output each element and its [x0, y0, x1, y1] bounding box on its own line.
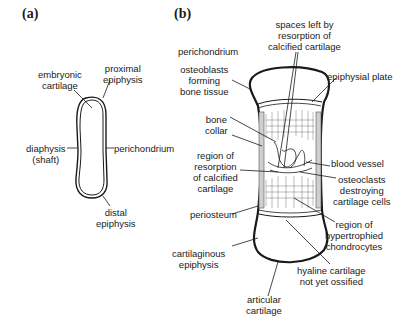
label-epiphysial-plate: epiphysial plate	[327, 71, 393, 82]
cartilage-model-a	[76, 97, 107, 198]
label-spaces-left: spaces left byresorption ofcalcified car…	[268, 19, 341, 52]
label-periosteum: periosteum	[190, 209, 237, 220]
label-blood-vessel: blood vessel	[331, 158, 384, 169]
label-articular: articularcartilage	[246, 294, 282, 316]
label-hypertrophied: region ofhypertrophiedchondrocytes	[325, 219, 383, 252]
label-osteoclasts: osteoclastsdestroyingcartilage cells	[333, 174, 391, 207]
label-embryonic-cartilage: embryoniccartilage	[38, 69, 82, 91]
label-distal-epiphysis: distalepiphysis	[96, 207, 136, 229]
label-cartilaginous-epiphysis: cartilaginousepiphysis	[172, 248, 225, 270]
label-diaphysis: diaphysis(shaft)	[26, 143, 66, 165]
panel-a-label: (a)	[22, 6, 38, 22]
label-perichondrium-a: perichondrium	[114, 143, 174, 154]
blood-vessel-b	[268, 142, 312, 173]
label-perichondrium-b: perichondrium	[178, 46, 238, 57]
label-bone-collar: bonecollar	[205, 114, 228, 136]
label-hyaline: hyaline cartilagenot yet ossified	[297, 265, 366, 287]
panel-b-label: (b)	[174, 6, 191, 22]
label-osteoblasts: osteoblastsformingbone tissue	[180, 64, 229, 97]
label-region-resorption: region ofresorptionof calcifiedcartilage	[193, 150, 238, 194]
cartilage-hatching-b	[266, 110, 314, 208]
label-proximal-epiphysis: proximalepiphysis	[103, 63, 143, 85]
